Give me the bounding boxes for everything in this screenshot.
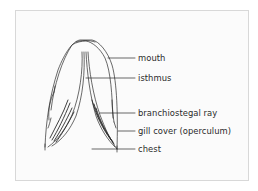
isthmus-inner-right (86, 52, 115, 147)
label-isthmus: isthmus (138, 73, 171, 83)
label-chest: chest (138, 144, 161, 154)
label-gill-cover: gill cover (operculum) (138, 126, 231, 136)
label-mouth: mouth (138, 53, 165, 63)
fish-head-illustration (0, 0, 258, 191)
label-branchiostegal-ray: branchiostegal ray (138, 108, 217, 118)
